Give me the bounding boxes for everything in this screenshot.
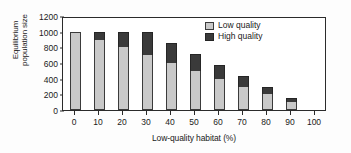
bar-segment-low-quality: [238, 87, 249, 111]
bar-segment-high-quality: [214, 65, 225, 79]
bar-40: [166, 43, 177, 110]
bar-segment-low-quality: [190, 71, 201, 110]
bar-segment-low-quality: [142, 55, 153, 110]
bar-segment-high-quality: [190, 54, 201, 71]
bar-50: [190, 54, 201, 110]
bar-segment-low-quality: [262, 94, 273, 110]
x-tick-mark: [122, 111, 123, 115]
y-tick-label: 600: [44, 60, 58, 69]
bar-80: [262, 87, 273, 110]
x-tick-label: 100: [307, 118, 321, 127]
bar-segment-high-quality: [118, 32, 129, 48]
bar-group: [63, 18, 325, 110]
bar-segment-high-quality: [166, 43, 177, 63]
y-tick-label: 0: [53, 107, 58, 116]
x-tick-mark: [170, 111, 171, 115]
bar-segment-high-quality: [94, 32, 105, 40]
x-tick-mark: [266, 111, 267, 115]
x-tick-mark: [290, 111, 291, 115]
x-tick-mark: [74, 111, 75, 115]
legend-item-high-quality: High quality: [205, 32, 262, 41]
bar-segment-low-quality: [286, 102, 297, 110]
x-tick-mark: [98, 111, 99, 115]
x-tick-label: 20: [117, 118, 126, 127]
plot-area: [62, 17, 326, 111]
x-tick-mark: [218, 111, 219, 115]
x-axis-label: Low-quality habitat (%): [62, 133, 326, 143]
bar-segment-low-quality: [214, 79, 225, 110]
chart-legend: Low quality High quality: [205, 21, 262, 43]
x-tick-label: 10: [93, 118, 102, 127]
x-tick-mark: [242, 111, 243, 115]
bar-segment-high-quality: [262, 87, 273, 94]
bar-0: [70, 32, 81, 110]
x-tick-label: 40: [165, 118, 174, 127]
y-tick-label: 1200: [39, 13, 58, 22]
legend-label-low-quality: Low quality: [218, 21, 261, 30]
legend-swatch-low-quality-icon: [205, 22, 214, 30]
x-tick-label: 80: [261, 118, 270, 127]
x-tick-label: 0: [72, 118, 77, 127]
bar-60: [214, 65, 225, 110]
bar-segment-low-quality: [166, 63, 177, 110]
x-tick-label: 90: [285, 118, 294, 127]
legend-item-low-quality: Low quality: [205, 21, 262, 30]
bar-30: [142, 32, 153, 110]
bar-segment-high-quality: [238, 76, 249, 87]
x-tick-mark: [194, 111, 195, 115]
x-tick-label: 60: [213, 118, 222, 127]
y-axis-label-line1: Equilibrium: [11, 21, 21, 59]
bar-segment-low-quality: [94, 40, 105, 111]
bar-segment-low-quality: [118, 47, 129, 110]
y-axis-ticks: 020040060080010001200: [20, 12, 60, 114]
y-tick-label: 800: [44, 44, 58, 53]
chart-figure: Equilibrium population size 020040060080…: [0, 0, 351, 153]
bar-segment-high-quality: [142, 32, 153, 56]
bar-90: [286, 98, 297, 110]
legend-swatch-high-quality-icon: [205, 33, 214, 41]
x-tick-label: 30: [141, 118, 150, 127]
y-tick-label: 200: [44, 91, 58, 100]
x-tick-label: 70: [237, 118, 246, 127]
x-axis-ticks: 0102030405060708090100: [62, 111, 326, 127]
x-tick-label: 50: [189, 118, 198, 127]
bar-70: [238, 76, 249, 110]
y-tick-label: 1000: [39, 28, 58, 37]
x-tick-mark: [146, 111, 147, 115]
bar-10: [94, 32, 105, 110]
legend-label-high-quality: High quality: [218, 32, 262, 41]
y-tick-label: 400: [44, 75, 58, 84]
bar-segment-low-quality: [70, 32, 81, 110]
x-tick-mark: [314, 111, 315, 115]
bar-20: [118, 32, 129, 110]
